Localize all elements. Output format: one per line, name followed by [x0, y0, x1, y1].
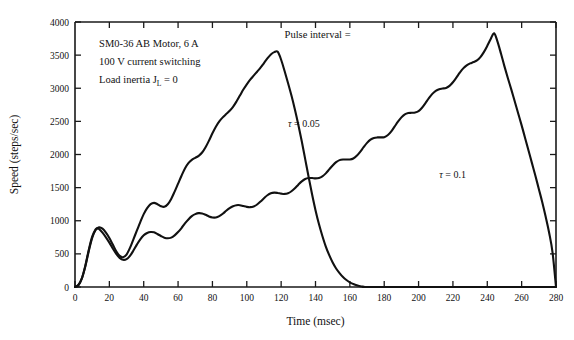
- series-label-1: τ = 0.1: [439, 169, 466, 180]
- y-tick-label-2000: 2000: [50, 150, 69, 160]
- x-tick-label-180: 180: [377, 293, 392, 303]
- x-tick-label-100: 100: [240, 293, 255, 303]
- x-tick-label-160: 160: [343, 293, 358, 303]
- y-tick-label-2500: 2500: [50, 117, 69, 127]
- y-tick-label-500: 500: [55, 249, 70, 259]
- motor-spec-line-3-pre-post: = 0: [161, 74, 177, 85]
- y-tick-label-1000: 1000: [50, 216, 69, 226]
- chart-canvas: 0204060801001201401601802002202402602800…: [0, 0, 574, 340]
- x-tick-label-260: 260: [515, 293, 530, 303]
- motor-spec-line-1-text: SM0-36 AB Motor, 6 A: [99, 38, 199, 49]
- x-tick-label-220: 220: [446, 293, 461, 303]
- series-label-0: τ = 0.05: [288, 118, 320, 129]
- y-tick-label-3500: 3500: [50, 51, 69, 61]
- pulse-interval-note-text: Pulse interval =: [285, 29, 351, 40]
- x-axis-title: Time (msec): [286, 315, 344, 328]
- x-tick-label-80: 80: [208, 293, 218, 303]
- motor-spec-line-2-text: 100 V current switching: [99, 56, 201, 67]
- x-tick-label-200: 200: [411, 293, 426, 303]
- x-tick-label-0: 0: [73, 293, 78, 303]
- x-tick-label-60: 60: [173, 293, 183, 303]
- curve-series-0: [75, 51, 556, 287]
- y-tick-label-3000: 3000: [50, 84, 69, 94]
- x-tick-label-40: 40: [139, 293, 149, 303]
- x-tick-label-140: 140: [308, 293, 323, 303]
- motor-spec-line-3-pre: Load inertia JL = 0: [99, 74, 178, 88]
- tau-value-1: = 0.1: [443, 169, 466, 180]
- motor-spec-line-1: SM0-36 AB Motor, 6 A: [99, 38, 199, 49]
- x-tick-label-20: 20: [105, 293, 115, 303]
- x-tick-label-280: 280: [549, 293, 564, 303]
- y-axis-title: Speed (steps/sec): [8, 115, 21, 195]
- speed-vs-time-chart: 0204060801001201401601802002202402602800…: [0, 0, 574, 340]
- motor-spec-line-2: 100 V current switching: [99, 56, 201, 67]
- pulse-interval-note: Pulse interval =: [285, 29, 351, 40]
- x-tick-label-120: 120: [274, 293, 289, 303]
- y-tick-label-4000: 4000: [50, 18, 69, 28]
- tau-value-0: = 0.05: [292, 118, 320, 129]
- y-tick-label-0: 0: [64, 283, 69, 293]
- x-tick-label-240: 240: [480, 293, 495, 303]
- motor-spec-line-3-pre-text: Load inertia J: [99, 74, 157, 85]
- y-tick-label-1500: 1500: [50, 183, 69, 193]
- curve-series-1: [75, 33, 556, 287]
